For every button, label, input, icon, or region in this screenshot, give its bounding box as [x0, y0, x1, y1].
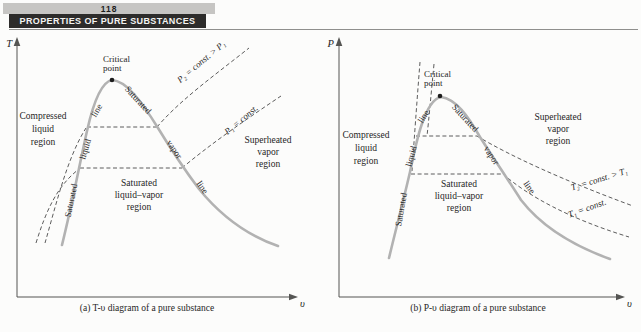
b-y-axis-arrow	[336, 37, 343, 46]
b-sat-liquid-line-word-line: line	[416, 108, 432, 125]
a-satmix-region-line1: Saturated	[121, 178, 157, 188]
b-critical-point-label-2: point	[424, 78, 443, 88]
a-caption: (a) T-υ diagram of a pure substance	[80, 303, 215, 314]
a-compressed-region-line2: liquid	[32, 124, 54, 134]
b-critical-point-dot	[438, 94, 443, 99]
diagrams-canvas: T υ Critical point Saturated liquid line…	[0, 0, 641, 332]
b-superheated-region-line1: Superheated	[535, 112, 582, 122]
textbook-page: 118 PROPERTIES OF PURE SUBSTANCES T υ	[0, 0, 641, 332]
b-x-axis-arrow	[616, 294, 625, 301]
a-superheated-region-line3: region	[256, 159, 281, 169]
a-isobar-p1-label: P₁ = const.	[222, 103, 260, 137]
a-y-axis-arrow	[14, 37, 21, 46]
a-y-axis-label: T	[6, 38, 13, 49]
a-superheated-region-line1: Superheated	[245, 135, 292, 145]
b-sat-vapor-line-word-line: line	[522, 179, 538, 196]
a-sat-liquid-line-word-saturated: Saturated	[63, 182, 80, 218]
a-compressed-region-line1: Compressed	[20, 111, 67, 121]
b-caption: (b) P-υ diagram of a pure substance	[410, 303, 546, 314]
a-x-axis-label: υ	[300, 298, 305, 309]
a-sat-liquid-line-word-liquid: liquid	[77, 137, 93, 160]
a-compressed-region-line3: region	[31, 137, 56, 147]
a-satmix-region-line2: liquid–vapor	[115, 190, 164, 200]
b-satmix-region-line3: region	[447, 203, 472, 213]
a-satmix-region-line3: region	[127, 202, 152, 212]
a-critical-point-label-2: point	[103, 63, 122, 73]
b-sat-vapor-line-word-saturated: Saturated	[450, 102, 481, 134]
a-sat-vapor-line-word-vapor: vapor	[165, 138, 185, 161]
b-sat-liquid-line-word-liquid: liquid	[404, 144, 419, 167]
b-sat-liquid-line-word-saturated: Saturated	[393, 191, 409, 227]
b-compressed-region-line2: liquid	[355, 143, 377, 153]
b-isotherm-t1-label: T₁ = const.	[566, 197, 607, 220]
b-x-axis-label: υ	[627, 298, 632, 309]
b-compressed-region-line1: Compressed	[343, 130, 390, 140]
b-superheated-region-line2: vapor	[547, 124, 569, 134]
a-sat-vapor-line-word-line: line	[194, 179, 210, 196]
b-compressed-region-line3: region	[354, 156, 379, 166]
b-y-axis-label: P	[327, 38, 335, 49]
b-isotherm-t2-label: T₂ = const. > T₁	[570, 166, 629, 193]
b-superheated-region-line3: region	[546, 136, 571, 146]
a-isobar-p2-label: P₂ = const. > P₁	[174, 39, 227, 86]
diagram-b: P υ Critical point Saturated liquid line…	[327, 37, 633, 314]
b-satmix-region-line1: Saturated	[441, 179, 477, 189]
a-x-axis-arrow	[289, 294, 298, 301]
a-sat-vapor-line-word-saturated: Saturated	[123, 84, 154, 116]
b-satmix-region-line2: liquid–vapor	[435, 191, 484, 201]
a-superheated-region-line2: vapor	[257, 147, 279, 157]
a-critical-point-dot	[110, 78, 115, 83]
diagram-a: T υ Critical point Saturated liquid line…	[6, 37, 305, 314]
